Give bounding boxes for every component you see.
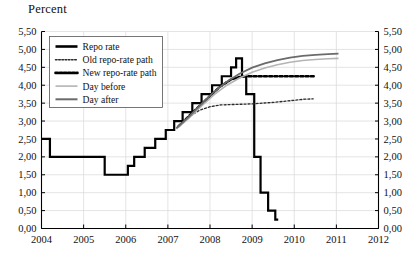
- x-tick-label: 2011: [326, 234, 347, 245]
- y-tick-label-left: 5,50: [18, 26, 36, 37]
- y-tick-label-left: 0,50: [18, 205, 36, 216]
- x-tick-label: 2008: [200, 234, 221, 245]
- y-tick-label-right: 1,50: [384, 169, 402, 180]
- legend-label-2: New repo-rate path: [83, 67, 157, 78]
- y-tick-label-left: 3,00: [18, 116, 36, 127]
- y-tick-label-right: 4,00: [384, 80, 402, 91]
- y-tick-label-left: 1,50: [18, 169, 36, 180]
- legend-label-3: Day before: [83, 81, 126, 92]
- legend-label-1: Old repo-rate path: [83, 54, 154, 65]
- y-tick-label-right: 0,00: [384, 223, 402, 234]
- y-tick-label-right: 3,50: [384, 98, 402, 109]
- y-tick-label-left: 2,00: [18, 151, 36, 162]
- x-tick-label: 2005: [73, 234, 94, 245]
- legend-label-0: Repo rate: [83, 41, 120, 52]
- x-tick-label: 2012: [368, 234, 389, 245]
- y-tick-label-right: 2,00: [384, 151, 402, 162]
- y-tick-label-left: 5,00: [18, 44, 36, 55]
- y-tick-label-left: 3,50: [18, 98, 36, 109]
- y-tick-label-right: 4,50: [384, 62, 402, 73]
- y-tick-label-left: 2,50: [18, 134, 36, 145]
- y-tick-label-left: 1,00: [18, 187, 36, 198]
- x-tick-label: 2004: [31, 234, 53, 245]
- y-tick-label-left: 0,00: [18, 223, 36, 234]
- chart-canvas: 0,000,000,500,501,001,001,501,502,002,00…: [0, 0, 420, 259]
- x-axis-ticks: 200420052006200720082009201020112012: [31, 225, 389, 245]
- legend: Repo rateOld repo-rate pathNew repo-rate…: [50, 37, 163, 108]
- y-tick-label-right: 2,50: [384, 134, 402, 145]
- series-line-day-after: [176, 54, 338, 129]
- x-tick-label: 2006: [115, 234, 136, 245]
- legend-label-4: Day after: [83, 94, 120, 105]
- x-tick-label: 2010: [284, 234, 305, 245]
- y-tick-label-right: 1,00: [384, 187, 402, 198]
- x-tick-label: 2009: [242, 234, 263, 245]
- y-tick-label-left: 4,00: [18, 80, 36, 91]
- y-tick-label-right: 0,50: [384, 205, 402, 216]
- y-tick-label-left: 4,50: [18, 62, 36, 73]
- x-tick-label: 2007: [157, 234, 178, 245]
- y-tick-label-right: 3,00: [384, 116, 402, 127]
- chart-container: Percent 0,000,000,500,501,001,001,501,50…: [0, 0, 420, 259]
- y-tick-label-right: 5,50: [384, 26, 402, 37]
- y-tick-label-right: 5,00: [384, 44, 402, 55]
